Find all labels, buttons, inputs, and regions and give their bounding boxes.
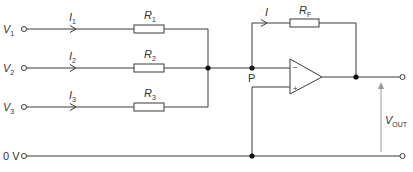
opamp-noninverting-sign: +: [293, 84, 298, 93]
ground-label: 0 V: [3, 150, 20, 162]
rf-label: RF: [299, 4, 311, 18]
v3-terminal: [22, 105, 27, 110]
v2-label: V2: [3, 62, 14, 76]
input-branch-2: V2 I2 R2: [3, 48, 290, 76]
r1-label: R1: [144, 9, 156, 23]
noninverting-to-ground-wire: [252, 87, 290, 156]
ground-junction-dot: [249, 153, 254, 158]
summing-amplifier-diagram: V1 I1 R1 V2 I2 R2 V3 I3 R3 P I RF: [0, 0, 413, 172]
v1-terminal: [22, 27, 27, 32]
resistor-r1: [134, 25, 164, 33]
feedback-wire-right: [319, 23, 356, 77]
i3-label: I3: [69, 89, 76, 103]
node-p-label: P: [248, 72, 255, 84]
bus-junction-dot: [205, 65, 210, 70]
vout-arrow-icon: [378, 82, 384, 89]
ground-terminal-right: [400, 154, 405, 159]
i2-label: I2: [69, 50, 76, 64]
feedback-current-label: I: [265, 6, 268, 18]
i1-label: I1: [69, 11, 76, 25]
resistor-r2: [134, 64, 164, 72]
output-junction-dot: [353, 74, 358, 79]
input-branch-1: V1 I1 R1: [3, 9, 208, 37]
feedback-wire-left: [252, 23, 290, 68]
input-branch-3: V3 I3 R3: [3, 87, 208, 115]
ground-terminal-left: [22, 154, 27, 159]
resistor-r3: [134, 103, 164, 111]
v3-label: V3: [3, 101, 14, 115]
r2-label: R2: [144, 48, 156, 62]
v2-terminal: [22, 66, 27, 71]
opamp-inverting-sign: −: [293, 63, 298, 72]
vout-label: VOUT: [385, 114, 408, 128]
r3-label: R3: [144, 87, 156, 101]
v1-label: V1: [3, 23, 14, 37]
resistor-rf: [290, 19, 319, 27]
vout-terminal: [400, 75, 405, 80]
